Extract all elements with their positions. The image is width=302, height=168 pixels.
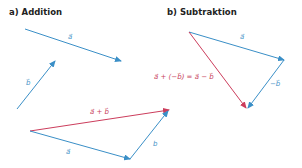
- label-b-left: b⃗: [26, 79, 30, 87]
- vector-a-sub: [189, 32, 284, 60]
- vector-difference: [189, 32, 246, 108]
- vector-a-top: [25, 29, 121, 61]
- vector-a-bottom: [30, 131, 130, 159]
- label-a-bottom: a⃗: [66, 148, 70, 156]
- label-sum: a⃗ + b⃗: [90, 108, 109, 116]
- vector-diagram: [0, 0, 302, 168]
- label-b-bottom: b: [153, 140, 157, 148]
- label-equation: a⃗ + (−b⃗) = a⃗ − b⃗: [154, 73, 214, 81]
- vector-b-bottom: [130, 111, 168, 159]
- vector-b-left: [17, 61, 55, 109]
- label-a-sub: a⃗: [240, 33, 244, 41]
- label-minus-b: −b⃗: [270, 80, 280, 88]
- label-a-top: a⃗: [68, 33, 72, 41]
